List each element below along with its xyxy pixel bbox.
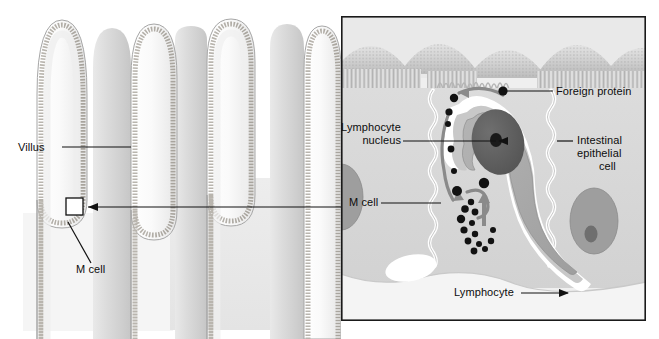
figure-root: Villus M cell	[0, 0, 659, 339]
vesicle-lower-2	[490, 227, 496, 233]
apical-dome-group	[341, 16, 646, 78]
label-lymphocyte-nucleus-line2: nucleus	[289, 134, 401, 147]
vesicle-cluster-10	[471, 248, 478, 255]
label-lymphocyte-nucleus-line1: Lymphocyte	[289, 121, 401, 134]
vesicle-path-1	[450, 94, 458, 102]
vesicle-cluster-4	[457, 215, 465, 223]
label-foreign-protein: Foreign protein	[556, 85, 632, 98]
epithelial-nucleus-right	[570, 188, 618, 254]
label-m-cell-right: M cell	[349, 196, 378, 209]
label-intestinal-epithelial-line3: cell	[599, 160, 616, 173]
vesicle-cluster-6	[460, 226, 467, 233]
vesicle-path-4	[448, 146, 455, 153]
epithelial-nucleolus-right	[585, 226, 598, 243]
right-panel-m-cell-detail: Foreign protein Lymphocyte nucleus Intes…	[341, 16, 646, 321]
connector-arrowhead	[88, 203, 98, 211]
vesicle-cluster-11	[482, 246, 488, 252]
vesicle-cluster-7	[472, 231, 478, 237]
vesicle-cluster-9	[476, 241, 482, 247]
label-lymphocyte: Lymphocyte	[454, 286, 514, 299]
vesicle-cluster-5	[469, 220, 475, 226]
lymphocyte-nucleolus	[490, 133, 502, 147]
vesicle-released	[479, 178, 489, 188]
label-intestinal-epithelial-line2: epithelial	[577, 147, 621, 160]
vesicle-cluster-1	[468, 199, 474, 205]
vesicle-cluster-8	[465, 238, 472, 245]
vesicle-cluster-3	[472, 209, 479, 216]
vesicle-path-3	[445, 121, 451, 127]
vesicle-path-5	[451, 168, 457, 174]
label-intestinal-epithelial-line1: Intestinal	[577, 134, 622, 147]
vesicle-path-2	[445, 108, 452, 115]
vesicle-lower-1	[488, 238, 494, 244]
vesicle-loop-1	[452, 186, 462, 196]
vesicle-cluster-2	[461, 205, 469, 213]
